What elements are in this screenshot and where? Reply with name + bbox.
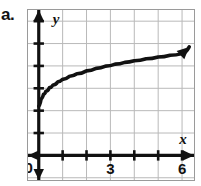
origin-label: 0 — [28, 159, 33, 176]
curve-path — [39, 47, 189, 106]
x-tick-label: 6 — [178, 160, 186, 177]
graph-plot-area: 03636yx — [27, 9, 195, 181]
axis-ticks — [34, 21, 183, 160]
x-axis-label: x — [178, 131, 187, 147]
coordinate-plane-svg: 03636yx — [28, 10, 194, 180]
y-axis-label: y — [51, 11, 60, 27]
x-axis-arrow-right — [183, 150, 194, 160]
graph-figure: a. 03636yx — [0, 0, 201, 186]
axis-labels: 03636yx — [28, 11, 187, 177]
function-curve — [39, 47, 189, 106]
x-tick-label: 3 — [106, 160, 114, 177]
problem-letter-label: a. — [1, 6, 14, 23]
y-axis-arrow-up — [34, 10, 44, 21]
y-axis-arrow-down — [34, 169, 44, 180]
